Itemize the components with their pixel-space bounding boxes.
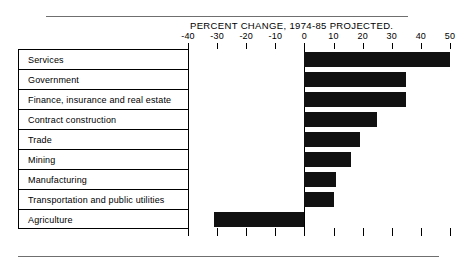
- x-axis-tick: [363, 228, 364, 236]
- category-row: Services: [19, 50, 189, 70]
- category-label: Contract construction: [19, 115, 116, 125]
- bar: [304, 52, 450, 67]
- x-axis-tick: [421, 228, 422, 236]
- x-axis-tick: [392, 228, 393, 236]
- top-divider-rule: [46, 16, 408, 17]
- category-label: Government: [19, 75, 79, 85]
- category-label: Services: [19, 55, 64, 65]
- x-axis-tick: [246, 228, 247, 236]
- bar: [304, 192, 333, 207]
- bar: [304, 112, 377, 127]
- x-axis-tick-labels: -40-30-20-1001020304050: [188, 31, 450, 43]
- category-row: Mining: [19, 150, 189, 170]
- plot-area: [188, 49, 450, 229]
- category-label-column: ServicesGovernmentFinance, insurance and…: [18, 49, 188, 229]
- category-row: Transportation and public utilities: [19, 190, 189, 210]
- category-row: Contract construction: [19, 110, 189, 130]
- bar: [304, 132, 359, 147]
- bar: [304, 72, 406, 87]
- category-label: Trade: [19, 135, 52, 145]
- category-label: Agriculture: [19, 215, 73, 225]
- chart-title: PERCENT CHANGE, 1974-85 PROJECTED.: [190, 20, 393, 31]
- category-label: Finance, insurance and real estate: [19, 95, 171, 105]
- x-axis-tick-label: 0: [302, 31, 307, 41]
- x-axis-tick-label: -30: [210, 31, 224, 41]
- bar: [304, 152, 351, 167]
- category-label: Mining: [19, 155, 55, 165]
- x-axis-tick: [450, 228, 451, 236]
- x-axis-ticks-bottom: [188, 228, 450, 236]
- x-axis-tick-label: -10: [269, 31, 283, 41]
- bar: [214, 212, 304, 227]
- x-axis-tick-label: 40: [416, 31, 426, 41]
- category-label: Transportation and public utilities: [19, 195, 165, 205]
- bar: [304, 92, 406, 107]
- x-axis-tick-label: -20: [239, 31, 253, 41]
- chart-figure: PERCENT CHANGE, 1974-85 PROJECTED. -40-3…: [0, 0, 457, 266]
- x-axis-tick-label: -40: [181, 31, 195, 41]
- category-row: Government: [19, 70, 189, 90]
- x-axis-tick: [217, 228, 218, 236]
- x-axis-tick: [304, 228, 305, 236]
- category-row: Agriculture: [19, 210, 189, 230]
- category-row: Trade: [19, 130, 189, 150]
- category-label: Manufacturing: [19, 175, 87, 185]
- x-axis-tick-label: 10: [328, 31, 338, 41]
- category-row: Manufacturing: [19, 170, 189, 190]
- bar: [304, 172, 336, 187]
- category-row: Finance, insurance and real estate: [19, 90, 189, 110]
- x-axis-tick: [334, 228, 335, 236]
- x-axis-tick-label: 20: [357, 31, 367, 41]
- x-axis-tick: [275, 228, 276, 236]
- x-axis-tick-label: 30: [387, 31, 397, 41]
- x-axis-tick-label: 50: [445, 31, 455, 41]
- x-axis-tick: [188, 228, 189, 236]
- x-axis-tick: [450, 43, 451, 49]
- bottom-divider-rule: [18, 256, 439, 257]
